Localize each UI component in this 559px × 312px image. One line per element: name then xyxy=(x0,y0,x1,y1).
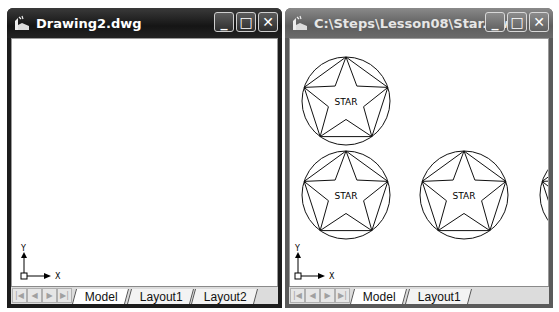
minimize-icon: _ xyxy=(221,14,228,30)
ucs-x-label: X xyxy=(329,272,335,281)
maximize-icon: □ xyxy=(239,14,252,30)
star-block: STAR xyxy=(420,151,508,239)
last-tab-button[interactable]: ▶| xyxy=(57,288,72,303)
autocad-app-icon[interactable] xyxy=(291,15,309,31)
drawing-canvas[interactable]: Y X xyxy=(11,38,278,288)
prev-tab-button[interactable]: ◀ xyxy=(305,288,320,303)
star-label: STAR xyxy=(453,191,476,201)
star-label: STAR xyxy=(335,97,358,107)
maximize-button[interactable]: □ xyxy=(236,12,256,32)
autocad-app-icon[interactable] xyxy=(13,15,31,31)
maximize-button[interactable]: □ xyxy=(507,12,527,32)
close-button[interactable]: ✕ xyxy=(258,12,278,32)
star-block: STAR xyxy=(302,151,390,239)
minimize-button[interactable]: _ xyxy=(214,12,234,32)
tab-navigation: |◀ ◀ ▶ ▶| xyxy=(290,288,350,303)
last-icon: ▶| xyxy=(338,291,347,300)
prev-icon: ◀ xyxy=(309,291,315,300)
ucs-icon: Y X xyxy=(18,244,78,284)
first-icon: |◀ xyxy=(15,291,24,300)
close-icon: ✕ xyxy=(533,14,545,30)
next-icon: ▶ xyxy=(324,291,330,300)
title-bar[interactable]: C:\Steps\Lesson08\Star.dwg _ □ ✕ xyxy=(285,8,553,38)
minimize-icon: _ xyxy=(492,14,499,30)
maximize-icon: □ xyxy=(510,14,523,30)
drawing-window-drawing2[interactable]: Drawing2.dwg _ □ ✕ Y X |◀ ◀ ▶ ▶| Model L… xyxy=(7,8,282,308)
tab-layout1[interactable]: Layout1 xyxy=(127,289,194,304)
first-icon: |◀ xyxy=(293,291,302,300)
layout-tab-bar: |◀ ◀ ▶ ▶| Model Layout1 xyxy=(289,286,549,304)
drawing-canvas[interactable]: STARSTARSTAR Y X xyxy=(289,38,549,288)
first-tab-button[interactable]: |◀ xyxy=(290,288,305,303)
ucs-y-label: Y xyxy=(20,244,26,253)
close-icon: ✕ xyxy=(262,14,274,30)
next-icon: ▶ xyxy=(46,291,52,300)
ucs-x-label: X xyxy=(55,272,61,281)
last-icon: ▶| xyxy=(60,291,69,300)
last-tab-button[interactable]: ▶| xyxy=(335,288,350,303)
tab-layout1[interactable]: Layout1 xyxy=(405,289,472,304)
tab-model[interactable]: Model xyxy=(350,289,407,304)
tab-layout2[interactable]: Layout2 xyxy=(191,289,258,304)
prev-icon: ◀ xyxy=(31,291,37,300)
star-block: STAR xyxy=(302,57,390,145)
ucs-icon: Y X xyxy=(292,244,352,284)
tab-model[interactable]: Model xyxy=(72,289,129,304)
prev-tab-button[interactable]: ◀ xyxy=(27,288,42,303)
next-tab-button[interactable]: ▶ xyxy=(42,288,57,303)
star-label: STAR xyxy=(335,191,358,201)
drawing-window-star[interactable]: C:\Steps\Lesson08\Star.dwg _ □ ✕ STARSTA… xyxy=(285,8,553,308)
ucs-y-label: Y xyxy=(294,244,300,253)
title-bar[interactable]: Drawing2.dwg _ □ ✕ xyxy=(7,8,282,38)
minimize-button[interactable]: _ xyxy=(485,12,505,32)
next-tab-button[interactable]: ▶ xyxy=(320,288,335,303)
star-block xyxy=(540,151,549,239)
tab-navigation: |◀ ◀ ▶ ▶| xyxy=(12,288,72,303)
layout-tab-bar: |◀ ◀ ▶ ▶| Model Layout1 Layout2 xyxy=(11,286,278,304)
first-tab-button[interactable]: |◀ xyxy=(12,288,27,303)
close-button[interactable]: ✕ xyxy=(529,12,549,32)
window-title: Drawing2.dwg xyxy=(36,16,142,31)
